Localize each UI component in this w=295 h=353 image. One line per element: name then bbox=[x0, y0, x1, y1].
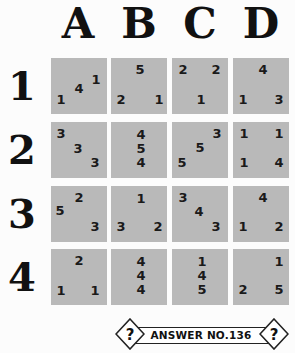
cell-number: 2 bbox=[211, 63, 220, 77]
cell-number: 2 bbox=[274, 220, 283, 234]
column-header-c: C bbox=[170, 2, 230, 46]
svg-text:?: ? bbox=[270, 326, 279, 344]
cell-number: 5 bbox=[274, 283, 283, 297]
cell-number: 3 bbox=[274, 93, 283, 107]
cell-number: 4 bbox=[136, 269, 145, 283]
cell-number: 1 bbox=[136, 192, 145, 206]
cell-c1[interactable]: 221 bbox=[172, 58, 228, 114]
question-mark-icon: ? bbox=[259, 318, 289, 350]
cell-number: 5 bbox=[195, 141, 204, 155]
cell-number: 3 bbox=[56, 127, 65, 141]
cell-a2[interactable]: 333 bbox=[51, 122, 107, 178]
cell-number: 1 bbox=[239, 156, 248, 170]
cell-number: 4 bbox=[197, 269, 206, 283]
cell-number: 1 bbox=[197, 255, 206, 269]
cell-number: 2 bbox=[153, 220, 162, 234]
column-header-a: A bbox=[48, 2, 108, 46]
row-header-1: 1 bbox=[2, 58, 42, 114]
svg-text:?: ? bbox=[126, 326, 135, 344]
cell-number: 1 bbox=[238, 93, 247, 107]
cell-number: 5 bbox=[55, 204, 64, 218]
cell-number: 4 bbox=[194, 205, 203, 219]
cell-number: 1 bbox=[239, 127, 248, 141]
cell-d2[interactable]: 1114 bbox=[233, 122, 289, 178]
cell-number: 4 bbox=[136, 283, 145, 297]
column-header-b: B bbox=[109, 2, 169, 46]
answer-banner: ANSWER NO.136 ? ? bbox=[113, 318, 289, 350]
cell-number: 1 bbox=[196, 93, 205, 107]
cell-number: 2 bbox=[74, 191, 83, 205]
cell-number: 2 bbox=[74, 254, 83, 268]
cell-b4[interactable]: 444 bbox=[111, 249, 167, 305]
cell-number: 5 bbox=[197, 283, 206, 297]
cell-number: 3 bbox=[90, 156, 99, 170]
cell-number: 4 bbox=[74, 82, 83, 96]
cell-c2[interactable]: 355 bbox=[172, 122, 228, 178]
cell-number: 4 bbox=[258, 191, 267, 205]
cell-a4[interactable]: 211 bbox=[51, 249, 107, 305]
cell-b2[interactable]: 454 bbox=[111, 122, 167, 178]
cell-number: 2 bbox=[116, 93, 125, 107]
cell-number: 1 bbox=[154, 93, 163, 107]
row-header-3: 3 bbox=[2, 186, 42, 242]
cell-number: 1 bbox=[56, 284, 65, 298]
cell-c4[interactable]: 145 bbox=[172, 249, 228, 305]
cell-number: 4 bbox=[136, 156, 145, 170]
cell-number: 4 bbox=[258, 63, 267, 77]
cell-a3[interactable]: 253 bbox=[51, 186, 107, 242]
cell-number: 5 bbox=[177, 156, 186, 170]
row-header-2: 2 bbox=[2, 122, 42, 178]
cell-number: 5 bbox=[135, 63, 144, 77]
cell-number: 2 bbox=[238, 283, 247, 297]
cell-number: 4 bbox=[274, 156, 283, 170]
cell-number: 3 bbox=[211, 220, 220, 234]
cell-a1[interactable]: 141 bbox=[51, 58, 107, 114]
cell-number: 1 bbox=[56, 93, 65, 107]
cell-number: 3 bbox=[116, 220, 125, 234]
cell-number: 1 bbox=[91, 73, 100, 87]
banner-bar: ANSWER NO.136 bbox=[131, 327, 271, 344]
cell-d3[interactable]: 412 bbox=[233, 186, 289, 242]
question-mark-icon: ? bbox=[115, 318, 145, 350]
cell-d4[interactable]: 125 bbox=[233, 249, 289, 305]
answer-number-label: ANSWER NO.136 bbox=[131, 328, 271, 343]
cell-b1[interactable]: 521 bbox=[111, 58, 167, 114]
cell-c3[interactable]: 343 bbox=[172, 186, 228, 242]
cell-number: 5 bbox=[136, 142, 145, 156]
cell-number: 1 bbox=[238, 220, 247, 234]
cell-number: 4 bbox=[136, 128, 145, 142]
cell-number: 1 bbox=[274, 127, 283, 141]
cell-b3[interactable]: 132 bbox=[111, 186, 167, 242]
cell-number: 1 bbox=[90, 284, 99, 298]
cell-d1[interactable]: 413 bbox=[233, 58, 289, 114]
cell-number: 3 bbox=[212, 127, 221, 141]
cell-number: 2 bbox=[178, 63, 187, 77]
cell-number: 3 bbox=[178, 191, 187, 205]
cell-number: 3 bbox=[90, 220, 99, 234]
cell-number: 3 bbox=[73, 142, 82, 156]
cell-number: 1 bbox=[274, 255, 283, 269]
column-header-d: D bbox=[231, 2, 291, 46]
cell-number: 4 bbox=[136, 255, 145, 269]
row-header-4: 4 bbox=[2, 249, 42, 305]
